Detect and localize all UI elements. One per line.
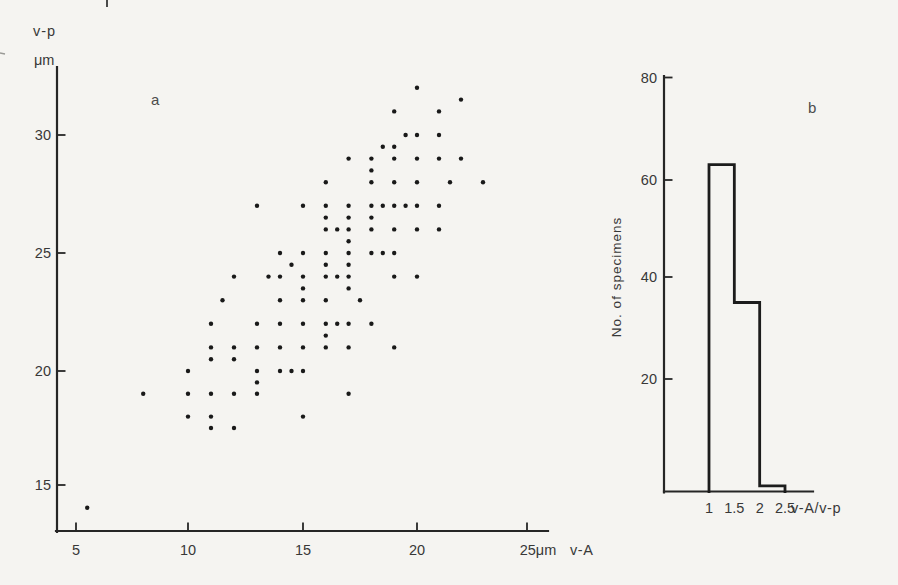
data-point bbox=[369, 251, 373, 255]
data-point bbox=[437, 109, 441, 113]
data-point bbox=[369, 227, 373, 231]
data-point bbox=[369, 215, 373, 219]
data-point bbox=[403, 204, 407, 208]
a-x-ticks: 510152025μm bbox=[72, 523, 556, 559]
data-point bbox=[369, 322, 373, 326]
data-point bbox=[301, 345, 305, 349]
data-point bbox=[369, 156, 373, 160]
data-point bbox=[301, 274, 305, 278]
data-point bbox=[186, 414, 190, 418]
data-point bbox=[437, 133, 441, 137]
data-point bbox=[324, 274, 328, 278]
data-point bbox=[324, 322, 328, 326]
data-point bbox=[255, 345, 259, 349]
data-point bbox=[437, 156, 441, 160]
data-point bbox=[324, 263, 328, 267]
data-point bbox=[415, 227, 419, 231]
data-point bbox=[278, 369, 282, 373]
data-point bbox=[335, 322, 339, 326]
data-point bbox=[289, 369, 293, 373]
data-point bbox=[346, 345, 350, 349]
data-point bbox=[278, 298, 282, 302]
data-point bbox=[369, 180, 373, 184]
b-y-tick-label: 80 bbox=[641, 70, 657, 86]
b-x-tick-label: 1 bbox=[705, 500, 713, 516]
data-point bbox=[141, 392, 145, 396]
data-point bbox=[346, 263, 350, 267]
data-point bbox=[278, 345, 282, 349]
data-point bbox=[85, 506, 89, 510]
panel-b-histogram: 20406080 11.522.5 No. of specimens b v-A… bbox=[609, 70, 841, 517]
b-y-ticks: 20406080 bbox=[641, 70, 673, 388]
scatter-points bbox=[85, 86, 485, 510]
b-y-tick-label: 60 bbox=[641, 172, 657, 188]
data-point bbox=[289, 263, 293, 267]
data-point bbox=[255, 369, 259, 373]
data-point bbox=[232, 345, 236, 349]
a-y-axis-title: v-p bbox=[33, 23, 56, 39]
panel-b-label: b bbox=[808, 99, 816, 116]
data-point bbox=[346, 251, 350, 255]
data-point bbox=[415, 133, 419, 137]
data-point bbox=[209, 322, 213, 326]
data-point bbox=[301, 286, 305, 290]
data-point bbox=[232, 357, 236, 361]
data-point bbox=[346, 392, 350, 396]
data-point bbox=[232, 274, 236, 278]
data-point bbox=[255, 392, 259, 396]
b-x-tick-label: 2 bbox=[756, 500, 764, 516]
data-point bbox=[415, 204, 419, 208]
b-y-axis-title: No. of specimens bbox=[609, 217, 624, 337]
data-point bbox=[324, 204, 328, 208]
scan-artifact-dash bbox=[0, 53, 5, 54]
data-point bbox=[392, 145, 396, 149]
figure-page: 15202530 510152025μm v-p μm a v-A 204060… bbox=[0, 0, 898, 585]
data-point bbox=[392, 204, 396, 208]
data-point bbox=[220, 298, 224, 302]
data-point bbox=[346, 322, 350, 326]
data-point bbox=[437, 227, 441, 231]
data-point bbox=[346, 286, 350, 290]
data-point bbox=[381, 145, 385, 149]
a-x-tick-label: 20 bbox=[409, 542, 425, 558]
data-point bbox=[403, 133, 407, 137]
figure-canvas: 15202530 510152025μm v-p μm a v-A 204060… bbox=[0, 0, 898, 585]
data-point bbox=[381, 251, 385, 255]
a-y-axis-unit: μm bbox=[34, 52, 54, 68]
data-point bbox=[278, 251, 282, 255]
data-point bbox=[392, 156, 396, 160]
a-x-tick-label: 10 bbox=[180, 542, 196, 558]
data-point bbox=[346, 215, 350, 219]
data-point bbox=[381, 204, 385, 208]
histogram-outline bbox=[709, 165, 785, 492]
data-point bbox=[324, 345, 328, 349]
a-x-axis-title: v-A bbox=[570, 542, 594, 558]
data-point bbox=[255, 322, 259, 326]
a-y-tick-label: 20 bbox=[35, 363, 51, 379]
data-point bbox=[415, 156, 419, 160]
data-point bbox=[209, 392, 213, 396]
data-point bbox=[301, 251, 305, 255]
data-point bbox=[301, 204, 305, 208]
panel-a-scatter: 15202530 510152025μm v-p μm a v-A bbox=[33, 23, 594, 558]
data-point bbox=[209, 414, 213, 418]
data-point bbox=[232, 426, 236, 430]
data-point bbox=[324, 333, 328, 337]
data-point bbox=[209, 345, 213, 349]
data-point bbox=[278, 322, 282, 326]
data-point bbox=[255, 204, 259, 208]
data-point bbox=[324, 298, 328, 302]
data-point bbox=[324, 215, 328, 219]
a-y-tick-label: 25 bbox=[35, 245, 51, 261]
data-point bbox=[301, 369, 305, 373]
data-point bbox=[392, 227, 396, 231]
data-point bbox=[415, 86, 419, 90]
data-point bbox=[392, 345, 396, 349]
data-point bbox=[481, 180, 485, 184]
data-point bbox=[335, 274, 339, 278]
data-point bbox=[186, 369, 190, 373]
data-point bbox=[232, 392, 236, 396]
b-y-tick-label: 20 bbox=[641, 371, 657, 387]
data-point bbox=[324, 251, 328, 255]
a-y-tick-label: 15 bbox=[35, 477, 51, 493]
